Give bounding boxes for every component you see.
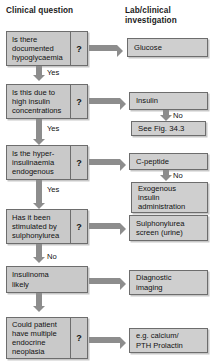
- investigation-box-insulin-label: Insulin: [130, 93, 207, 109]
- investigation-box-glucose-label: Glucose: [128, 39, 207, 56]
- investigation-box-glucose[interactable]: Glucose: [127, 38, 208, 57]
- investigation-box-see-fig[interactable]: See Fig. 34.3: [131, 121, 206, 136]
- investigation-box-insulin[interactable]: Insulin: [129, 92, 208, 110]
- question-mark-icon: ?: [70, 210, 87, 243]
- branch-label-no-cpeptide: No: [173, 171, 183, 180]
- question-box-high-insulin[interactable]: Is this due to high insulin concentratio…: [6, 84, 88, 119]
- investigation-box-cpeptide-label: C-peptide: [130, 154, 207, 169]
- branch-label-no-insulin: No: [173, 111, 183, 120]
- investigation-box-sulphonylurea-screen[interactable]: Sulphonylurea screen (urine): [129, 215, 208, 241]
- question-mark-icon: ?: [70, 146, 87, 179]
- question-box-hypoglycaemia[interactable]: Is there documented hypoglycaemia ?: [6, 31, 88, 66]
- question-box-sulphonylurea[interactable]: Has it been stimulated by sulphonylurea …: [6, 209, 88, 244]
- question-box-endogenous[interactable]: Is the hyper- insulinaemia endogenous ?: [6, 145, 88, 180]
- question-box-sulphonylurea-label: Has it been stimulated by sulphonylurea: [7, 210, 70, 243]
- question-box-endogenous-label: Is the hyper- insulinaemia endogenous: [7, 146, 70, 179]
- branch-label-no-main: No: [47, 252, 57, 261]
- outcome-box-insulinoma-likely[interactable]: Insulinoma likely: [6, 266, 88, 293]
- investigation-box-calcium-pth-prolactin-label: e.g. calcium/ PTH Prolactin: [130, 329, 207, 352]
- investigation-box-diagnostic-imaging[interactable]: Diagnostic imaging: [129, 270, 208, 295]
- question-box-high-insulin-label: Is this due to high insulin concentratio…: [7, 85, 70, 118]
- flowchart-diagram: Clinical question Lab/clinical investiga…: [0, 0, 214, 363]
- column-heading-clinical-question: Clinical question: [6, 6, 101, 16]
- investigation-box-see-fig-label: See Fig. 34.3: [132, 122, 205, 135]
- outcome-box-insulinoma-likely-label: Insulinoma likely: [7, 267, 87, 292]
- branch-label-yes-2: Yes: [47, 124, 59, 133]
- question-box-hypoglycaemia-label: Is there documented hypoglycaemia: [7, 32, 70, 65]
- investigation-box-exogenous-insulin-label: Exogenous insulin administration: [132, 183, 207, 212]
- investigation-box-calcium-pth-prolactin[interactable]: e.g. calcium/ PTH Prolactin: [129, 328, 208, 353]
- investigation-box-exogenous-insulin[interactable]: Exogenous insulin administration: [131, 182, 208, 213]
- branch-label-yes-1: Yes: [47, 68, 59, 77]
- investigation-box-diagnostic-imaging-label: Diagnostic imaging: [130, 271, 207, 294]
- question-mark-icon: ?: [70, 85, 87, 118]
- investigation-box-sulphonylurea-screen-label: Sulphonylurea screen (urine): [130, 216, 207, 240]
- question-box-multiple-endocrine-neoplasia-label: Could patient have multiple endocrine ne…: [7, 318, 70, 358]
- branch-label-yes-3: Yes: [47, 185, 59, 194]
- question-box-multiple-endocrine-neoplasia[interactable]: Could patient have multiple endocrine ne…: [6, 317, 88, 359]
- investigation-box-cpeptide[interactable]: C-peptide: [129, 153, 208, 170]
- question-mark-icon: ?: [70, 32, 87, 65]
- column-heading-lab-investigation: Lab/clinical investigation: [125, 6, 211, 26]
- question-mark-icon: ?: [70, 318, 87, 358]
